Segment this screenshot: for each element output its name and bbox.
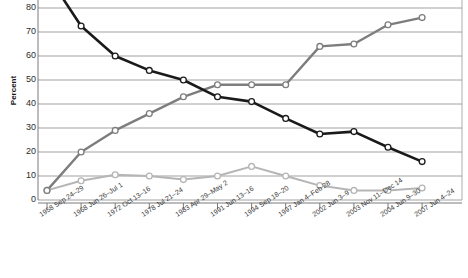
x-axis-labels: 1958 Sep 24–291968 Jun 26–Jul 11972 Oct …	[0, 0, 468, 278]
chart-container: Percent 80706050403020100 1958 Sep 24–29…	[0, 0, 468, 278]
x-tick-label: 2003 Nov 11–Dec 14	[345, 176, 404, 217]
